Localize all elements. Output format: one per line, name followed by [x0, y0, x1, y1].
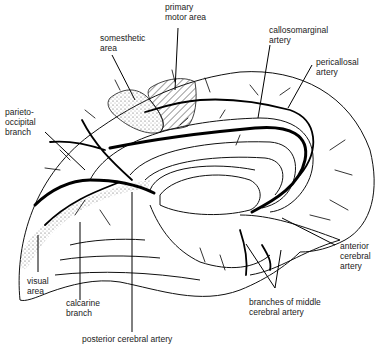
label-posterior-cerebral-artery: posterior cerebral artery	[82, 334, 172, 344]
label-parieto-occipital-branch: parieto- occipital branch	[5, 107, 36, 137]
thalamus-outline	[160, 175, 260, 215]
label-pericallosal-artery: pericallosal artery	[316, 57, 359, 77]
label-branches-of-middle-cerebral-artery: branches of middle cerebral artery	[249, 297, 321, 317]
label-visual-area: visual area	[27, 276, 49, 296]
middle-cerebral-branches	[240, 230, 271, 275]
occipital-gyri	[70, 239, 145, 245]
label-anterior-cerebral-artery: anterior cerebral artery	[340, 241, 371, 271]
label-somesthetic-area: somesthetic area	[100, 33, 145, 53]
temporal-lobe-outline	[240, 215, 340, 275]
label-primary-motor-area: primary motor area	[165, 2, 206, 22]
label-calcarine-branch: calcarine branch	[66, 298, 100, 318]
fornix-outline	[150, 166, 255, 190]
hemisphere-outline	[19, 72, 374, 301]
label-callosomarginal-artery: callosomarginal artery	[269, 25, 328, 45]
